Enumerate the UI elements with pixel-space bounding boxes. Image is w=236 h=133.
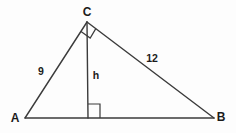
- geometry-diagram: C A B 9 12 h: [0, 0, 236, 133]
- side-cb-line: [87, 22, 214, 118]
- right-angle-marker-apex: [81, 29, 96, 38]
- side-cb-label: 12: [146, 52, 158, 64]
- altitude-label: h: [93, 69, 99, 81]
- vertex-label-c: C: [83, 5, 92, 19]
- vertex-label-b: B: [217, 110, 226, 124]
- vertex-label-a: A: [11, 111, 20, 125]
- side-ac-line: [25, 22, 87, 118]
- side-ac-label: 9: [38, 65, 44, 77]
- triangle-figure: C A B 9 12 h: [0, 0, 236, 133]
- right-angle-marker-foot: [88, 104, 100, 118]
